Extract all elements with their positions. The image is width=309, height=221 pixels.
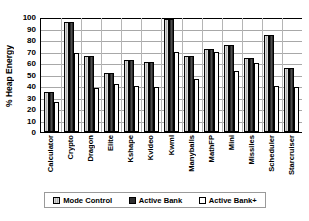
bar xyxy=(174,52,179,133)
x-tick-label: Mini xyxy=(221,135,241,187)
bar xyxy=(134,86,139,132)
x-tick-label: Manyballs xyxy=(181,135,201,187)
bar-groups xyxy=(41,18,302,132)
x-tick-label-text: Starcruiser xyxy=(287,135,296,175)
x-tick-label-text: Kshape xyxy=(126,135,135,162)
bar xyxy=(154,87,159,132)
x-tick-label: Starcruiser xyxy=(282,135,302,187)
legend-item[interactable]: Mode Control xyxy=(53,196,112,205)
bar xyxy=(214,52,219,133)
x-tick-label: Elite xyxy=(100,135,120,187)
y-tick-label: 70 xyxy=(27,49,36,57)
x-tick-label: Dragon xyxy=(80,135,100,187)
y-tick-label: 10 xyxy=(27,118,36,126)
bar xyxy=(74,53,79,132)
x-tick-label-text: Elite xyxy=(106,135,115,151)
x-tick-label: Kvideo xyxy=(141,135,161,187)
y-axis-tick-labels: 0102030405060708090100 xyxy=(14,14,38,138)
y-tick-label: 0 xyxy=(32,129,36,137)
legend-item[interactable]: Active Bank xyxy=(129,196,182,205)
bar-group xyxy=(282,18,302,132)
bar xyxy=(114,84,119,132)
x-axis-tick-labels: CalculatorCryptoDragonEliteKshapeKvideoK… xyxy=(40,135,302,187)
bar-group xyxy=(121,18,141,132)
white-swatch xyxy=(199,197,206,204)
bar-group xyxy=(41,18,61,132)
x-tick-label-text: Manyballs xyxy=(187,135,196,172)
bar xyxy=(234,71,239,132)
bar-group xyxy=(182,18,202,132)
bar-group xyxy=(61,18,81,132)
bar xyxy=(94,88,99,132)
bar xyxy=(294,87,299,132)
bar xyxy=(194,79,199,132)
x-tick-label: Scheduler xyxy=(262,135,282,187)
chart-container: % Heap Energy 0102030405060708090100 Cal… xyxy=(0,0,309,221)
y-tick-label: 40 xyxy=(27,83,36,91)
plot-area xyxy=(40,18,302,133)
y-tick-label: 100 xyxy=(23,14,36,22)
bar-group xyxy=(161,18,181,132)
bar xyxy=(274,86,279,132)
legend-item-label: Active Bank xyxy=(139,196,182,205)
x-tick-label: Kwml xyxy=(161,135,181,187)
bar-group xyxy=(81,18,101,132)
legend-item-label: Active Bank+ xyxy=(209,196,257,205)
y-tick-label: 20 xyxy=(27,106,36,114)
bar-group xyxy=(262,18,282,132)
x-tick-label-text: Kvideo xyxy=(146,135,155,160)
bar-group xyxy=(141,18,161,132)
x-tick-label: Kshape xyxy=(121,135,141,187)
chart-legend: Mode ControlActive BankActive Bank+ xyxy=(44,192,266,208)
x-tick-label-text: Mini xyxy=(227,135,236,150)
bar-group xyxy=(202,18,222,132)
y-tick-label: 90 xyxy=(27,26,36,34)
x-tick-label: Crypto xyxy=(60,135,80,187)
x-tick-label: Calculator xyxy=(40,135,60,187)
x-tick-label: Missiles xyxy=(242,135,262,187)
x-tick-label-text: Kwml xyxy=(167,135,176,155)
x-tick-label-text: Calculator xyxy=(46,135,55,172)
bar xyxy=(54,102,59,132)
y-tick-label: 80 xyxy=(27,37,36,45)
bar-group xyxy=(101,18,121,132)
dark-gray-swatch xyxy=(129,197,136,204)
light-gray-swatch xyxy=(53,197,60,204)
bar-group xyxy=(242,18,262,132)
legend-item-label: Mode Control xyxy=(63,196,112,205)
y-tick-label: 50 xyxy=(27,72,36,80)
x-tick-label-text: Scheduler xyxy=(267,135,276,172)
bar xyxy=(254,63,259,132)
x-tick-label-text: MathFP xyxy=(207,135,216,162)
x-tick-label: MathFP xyxy=(201,135,221,187)
y-tick-label: 60 xyxy=(27,60,36,68)
x-tick-label-text: Crypto xyxy=(66,135,75,159)
legend-item[interactable]: Active Bank+ xyxy=(199,196,257,205)
x-tick-label-text: Missiles xyxy=(247,135,256,165)
y-tick-label: 30 xyxy=(27,95,36,103)
bar-group xyxy=(222,18,242,132)
x-tick-label-text: Dragon xyxy=(86,135,95,162)
